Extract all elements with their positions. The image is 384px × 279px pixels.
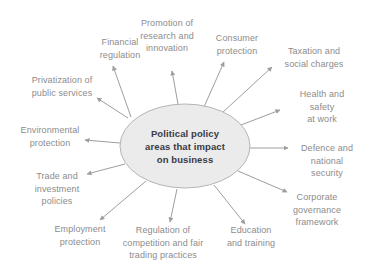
policy-diagram: Financial regulationPromotion of researc… (0, 0, 384, 279)
center-ellipse (120, 104, 250, 188)
diagram-svg (0, 0, 384, 279)
arrow-health-safety-work (241, 110, 280, 125)
arrow-regulation-competition-trading (170, 189, 177, 222)
arrow-environmental-protection (85, 140, 120, 143)
arrow-trade-investment-policies (87, 164, 125, 174)
arrow-corporate-governance-framework (238, 171, 287, 192)
arrow-consumer-protection (204, 62, 224, 107)
arrow-privatization-public-services (97, 98, 128, 118)
arrow-taxation-social-charges (222, 67, 272, 113)
arrow-education-training (214, 185, 245, 224)
arrow-employment-protection (100, 181, 146, 220)
arrow-financial-regulation (113, 66, 131, 117)
arrow-promotion-research-innovation (172, 71, 178, 104)
